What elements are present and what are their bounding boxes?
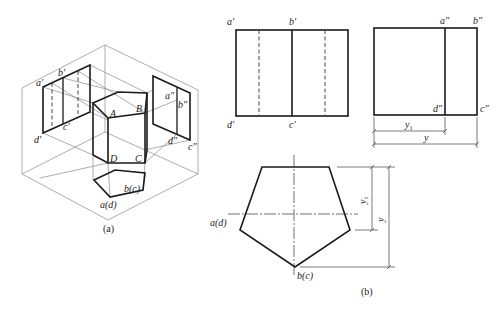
label-a-dprime: a″ <box>165 90 175 101</box>
front-view: a′ b′ c′ d′ <box>227 16 348 130</box>
side-label-a-dprime: a″ <box>440 15 450 26</box>
orthographic-projection-figure: a′ b′ c′ d′ a″ b″ c″ d″ A B C D b(c) a(d… <box>0 0 502 310</box>
label-bc: b(c) <box>124 183 141 195</box>
dim-label-y1: y1 <box>404 119 412 131</box>
label-A: A <box>109 108 117 119</box>
top-dim-label-y1: y1 <box>357 197 369 205</box>
dim-label-y: y <box>423 132 429 143</box>
front-label-b-prime: b′ <box>289 16 297 27</box>
caption-a: (a) <box>103 223 114 235</box>
front-label-c-prime: c′ <box>289 119 296 130</box>
front-label-a-prime: a′ <box>227 16 235 27</box>
side-label-c-dprime: c″ <box>480 103 489 114</box>
side-label-b-dprime: b″ <box>473 15 483 26</box>
side-view: a″ b″ c″ d″ y1 y <box>372 15 489 148</box>
label-d-dprime: d″ <box>168 135 178 146</box>
label-c-dprime: c″ <box>188 141 197 152</box>
label-ad: a(d) <box>100 199 117 211</box>
top-view: a(d) b(c) y1 y <box>210 155 395 282</box>
caption-b: (b) <box>361 286 373 298</box>
side-view-dimensions: y1 y <box>372 117 479 148</box>
label-c-prime: c′ <box>63 121 70 132</box>
label-B: B <box>136 103 142 114</box>
label-C: C <box>135 153 142 164</box>
label-D: D <box>109 153 118 164</box>
label-d-prime: d′ <box>34 134 42 145</box>
side-label-d-dprime: d″ <box>433 103 443 114</box>
top-label-bc: b(c) <box>297 270 314 282</box>
top-label-ad: a(d) <box>210 217 227 229</box>
front-label-d-prime: d′ <box>227 119 235 130</box>
top-dim-label-y: y <box>375 217 386 223</box>
label-b-prime: b′ <box>58 67 66 78</box>
label-b-dprime: b″ <box>178 99 188 110</box>
panel-b-orthographic-views: a′ b′ c′ d′ a″ b″ c″ d″ y <box>210 15 489 298</box>
label-a-prime: a′ <box>36 77 44 88</box>
panel-a-isometric-projection: a′ b′ c′ d′ a″ b″ c″ d″ A B C D b(c) a(d… <box>22 45 198 235</box>
